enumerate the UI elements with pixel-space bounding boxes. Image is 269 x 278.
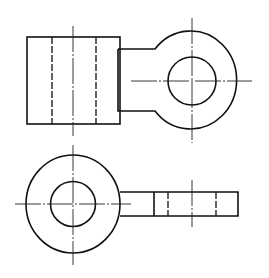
body-block-outline	[27, 37, 120, 124]
bar-outline	[120, 192, 238, 216]
arm-and-eye-outline	[118, 31, 237, 129]
engineering-drawing	[0, 0, 269, 278]
front-view	[27, 18, 252, 143]
top-view	[15, 145, 238, 265]
